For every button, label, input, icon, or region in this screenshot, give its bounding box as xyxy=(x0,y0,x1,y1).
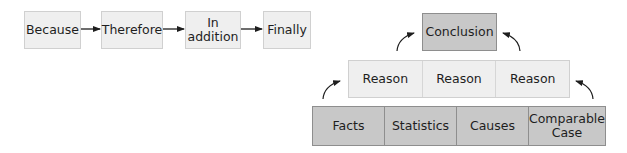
curved-arrow-icon xyxy=(397,33,414,51)
curved-arrow-icon xyxy=(503,33,520,51)
curved-arrow-icon xyxy=(576,81,593,99)
curved-arrow-icon xyxy=(323,81,340,99)
arrows-layer xyxy=(0,0,627,153)
